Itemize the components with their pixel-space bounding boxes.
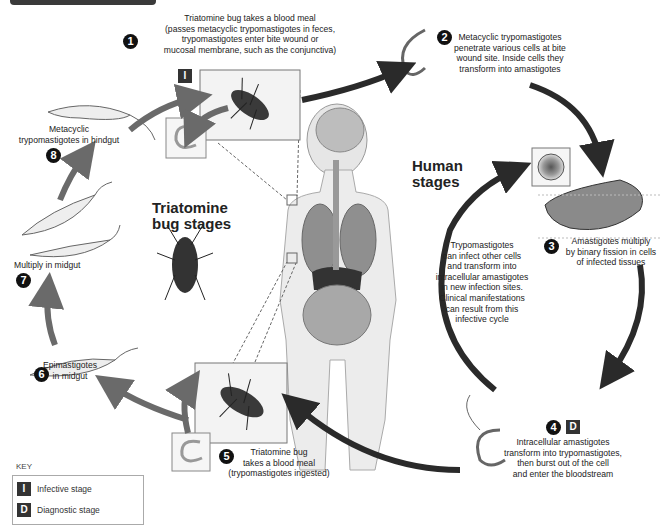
caption-line: and enter the bloodstream (488, 469, 638, 480)
key-legend: I Infective stage D Diagnostic stage (12, 475, 144, 525)
caption-line: trypomastigotes enter bite wound or (140, 34, 360, 45)
note-line: Trypomastigotes (432, 240, 532, 251)
stage-8-caption: Metacyclic trypomastigotes in hindgut (14, 124, 124, 145)
caption-line: of infected tissues (556, 257, 666, 268)
key-label: Diagnostic stage (37, 505, 100, 515)
caption-line: mucosal membrane, such as the conjunctiv… (140, 45, 360, 56)
diagnostic-stage-badge: D (566, 420, 580, 434)
caption-line: Amastigotes multiply (556, 236, 666, 247)
stage-4-number: 4 (546, 420, 561, 435)
caption-line: transform into amastigotes (448, 64, 572, 75)
bug-stages-heading: Triatomine bug stages (152, 200, 231, 232)
caption-line: Epimastigotes (40, 360, 100, 371)
note-line: in new infection sites. (432, 282, 532, 293)
stage-6-caption: Epimastigotes in midgut (40, 360, 100, 381)
key-label: Infective stage (37, 484, 92, 494)
stage-7-number: 7 (16, 273, 31, 288)
caption-line: Intracellular amastigotes (488, 437, 638, 448)
heading-line: Human (412, 158, 463, 174)
note-line: can infect other cells (432, 251, 532, 262)
caption-line: Triatomine bug takes a blood meal (140, 13, 360, 24)
note-line: intracellular amastigotes (432, 272, 532, 283)
heading-line: stages (412, 174, 463, 190)
stage-8-number: 8 (46, 148, 61, 163)
caption-line: wound site. Inside cells they (448, 53, 572, 64)
heading-line: Triatomine (152, 200, 231, 216)
caption-line: trypomastigotes in hindgut (14, 135, 124, 146)
caption-line: Triatomine bug (218, 447, 340, 458)
key-title: KEY (16, 462, 32, 471)
caption-line: transform into trypomastigotes, (488, 448, 638, 459)
caption-line: then burst out of the cell (488, 458, 638, 469)
diagnostic-badge-icon: D (17, 503, 31, 517)
caption-line: penetrate various cells at bite (448, 43, 572, 54)
caption-line: Metacyclic (14, 124, 124, 135)
stage-5-caption: Triatomine bug takes a blood meal (trypo… (218, 447, 340, 479)
key-item-diagnostic: D Diagnostic stage (17, 503, 100, 517)
human-stages-heading: Human stages (412, 158, 463, 190)
note-line: Clinical manifestations (432, 293, 532, 304)
caption-line: Multiply in midgut (14, 260, 94, 271)
stage-7-caption: Multiply in midgut (14, 260, 94, 271)
key-item-infective: I Infective stage (17, 482, 92, 496)
caption-line: (passes metacyclic trypomastigotes in fe… (140, 24, 360, 35)
caption-line: takes a blood meal (218, 458, 340, 469)
human-body-illustration (280, 104, 396, 470)
caption-line: in midgut (40, 371, 100, 382)
heading-line: bug stages (152, 216, 231, 232)
infective-stage-badge: I (178, 69, 192, 83)
stage-1-number: 1 (123, 34, 138, 49)
stage-4-caption: Intracellular amastigotes transform into… (488, 437, 638, 479)
note-line: and transform into (432, 261, 532, 272)
stage-2-caption: Metacyclic trypomastigotes penetrate var… (448, 32, 572, 74)
triatomine-bug-icon (157, 225, 213, 300)
stage-1-caption: Triatomine bug takes a blood meal (passe… (140, 13, 360, 55)
caption-line: (trypomastigotes ingested) (218, 468, 340, 479)
note-line: infective cycle (432, 314, 532, 325)
infected-tissue (545, 180, 643, 230)
stage-3-caption: Amastigotes multiply by binary fission i… (556, 236, 666, 268)
note-line: can result from this (432, 304, 532, 315)
center-note: Trypomastigotes can infect other cells a… (432, 240, 532, 325)
infective-badge-icon: I (17, 482, 31, 496)
caption-line: Metacyclic trypomastigotes (448, 32, 572, 43)
parasite-inset-bottom (172, 433, 210, 471)
caption-line: by binary fission in cells (556, 247, 666, 258)
